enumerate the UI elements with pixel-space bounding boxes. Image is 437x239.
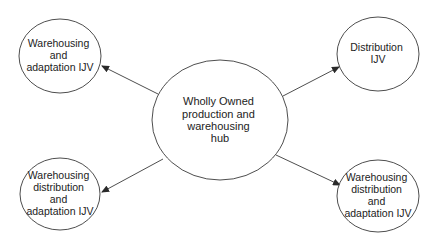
node-bottom-left: Warehousing distribution and adaptation … (20, 158, 100, 230)
bottom-left-label-line: and (50, 193, 68, 205)
top-left-label-line: Warehousing (28, 37, 90, 49)
top-left-label-line: and (50, 49, 68, 61)
node-top-right: Distribution IJV (337, 17, 419, 91)
hub-label-line: production and (182, 107, 255, 119)
bottom-right-label-line: Warehousing (346, 171, 408, 183)
top-right-label-line: IJV (370, 53, 385, 65)
node-bottom-right: Warehousing distribution and adaptation … (337, 160, 419, 232)
bottom-right-label-line: adaptation IJV (344, 207, 411, 219)
edge-hub-to-bottom-right (276, 155, 340, 185)
hub-spoke-diagram: Wholly Owned production and warehousing … (0, 0, 437, 239)
edge-hub-to-top-left (102, 66, 158, 94)
edge-hub-to-bottom-left (102, 159, 163, 192)
hub-label-line: Wholly Owned (183, 95, 254, 107)
bottom-right-label-line: and (368, 195, 386, 207)
bottom-left-label-line: Warehousing (28, 169, 90, 181)
bottom-left-label-line: distribution (33, 181, 84, 193)
hub-label-line: hub (211, 132, 229, 144)
node-top-left: Warehousing and adaptation IJV (19, 19, 101, 93)
bottom-left-label-line: adaptation IJV (26, 205, 93, 217)
top-right-label-line: Distribution (350, 41, 403, 53)
hub-label-line: warehousing (186, 120, 249, 132)
edge-hub-to-top-right (283, 67, 339, 96)
node-hub: Wholly Owned production and warehousing … (152, 60, 288, 180)
bottom-right-label-line: distribution (351, 183, 402, 195)
top-left-label-line: adaptation IJV (26, 61, 93, 73)
